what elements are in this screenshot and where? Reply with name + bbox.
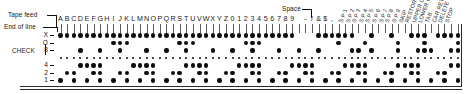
punch-dot xyxy=(72,33,76,37)
punch-dot xyxy=(111,78,115,82)
punch-dot xyxy=(151,63,155,67)
punch-dot xyxy=(343,63,347,67)
guide-dot xyxy=(391,57,393,59)
guide-dot xyxy=(397,57,399,59)
punch-dot xyxy=(98,48,102,52)
punch-dot xyxy=(456,48,460,52)
punch-dot xyxy=(350,78,354,82)
punch-dot xyxy=(184,63,188,67)
punch-dot xyxy=(277,71,281,75)
guide-dot xyxy=(311,57,313,59)
punch-dot xyxy=(409,63,413,67)
guide-dot xyxy=(126,57,128,59)
punch-dot xyxy=(257,63,261,67)
punch-dot xyxy=(91,33,95,37)
punch-dot xyxy=(125,33,129,37)
guide-dot xyxy=(424,57,426,59)
punch-dot xyxy=(197,33,201,37)
guide-dot xyxy=(410,57,412,59)
guide-dot xyxy=(417,57,419,59)
punch-dot xyxy=(125,78,129,82)
punch-dot xyxy=(197,71,201,75)
guide-dot xyxy=(265,57,267,59)
punch-dot xyxy=(184,41,188,45)
punch-dot xyxy=(191,63,195,67)
punch-dot xyxy=(244,78,248,82)
guide-dot xyxy=(152,57,154,59)
punch-dot xyxy=(177,78,181,82)
punch-dot xyxy=(191,78,195,82)
punch-dot xyxy=(283,33,287,37)
punch-dot xyxy=(257,33,261,37)
punch-dot xyxy=(65,33,69,37)
punch-dot xyxy=(270,78,274,82)
guide-dot xyxy=(73,57,75,59)
guide-dot xyxy=(298,57,300,59)
guide-dot xyxy=(251,57,253,59)
guide-dot xyxy=(146,57,148,59)
guide-dot xyxy=(218,57,220,59)
punch-dot xyxy=(158,33,162,37)
guide-dot xyxy=(331,57,333,59)
punch-dot xyxy=(91,71,95,75)
punch-dot xyxy=(336,33,340,37)
punch-dot xyxy=(204,71,208,75)
punch-dot xyxy=(250,63,254,67)
guide-dot xyxy=(66,57,68,59)
punch-dot xyxy=(164,48,168,52)
punch-dot xyxy=(456,63,460,67)
guide-dot xyxy=(437,57,439,59)
guide-dot xyxy=(99,57,101,59)
guide-dot xyxy=(139,57,141,59)
punch-dot xyxy=(277,48,281,52)
punch-dot xyxy=(316,48,320,52)
punch-dot xyxy=(456,41,460,45)
punch-dot xyxy=(343,33,347,37)
guide-dot xyxy=(344,57,346,59)
punch-dot xyxy=(98,33,102,37)
punch-dot xyxy=(303,63,307,67)
punch-dot xyxy=(164,33,168,37)
punch-dot xyxy=(244,63,248,67)
punch-dot xyxy=(177,33,181,37)
punch-dot xyxy=(310,63,314,67)
guide-dot xyxy=(172,57,174,59)
guide-dot xyxy=(285,57,287,59)
punch-dot xyxy=(297,63,301,67)
punch-dot xyxy=(396,41,400,45)
punch-dot xyxy=(85,33,89,37)
guide-dot xyxy=(185,57,187,59)
punch-dot xyxy=(91,63,95,67)
punch-dot xyxy=(151,33,155,37)
punch-dot xyxy=(250,48,254,52)
punch-dot xyxy=(237,33,241,37)
punch-dot xyxy=(204,63,208,67)
punch-dot xyxy=(204,78,208,82)
punch-dot xyxy=(416,63,420,67)
punch-dot xyxy=(310,78,314,82)
punch-dot xyxy=(72,78,76,82)
punch-dot xyxy=(383,71,387,75)
punch-dot xyxy=(369,48,373,52)
punch-dot xyxy=(171,71,175,75)
punch-dot xyxy=(237,63,241,67)
punch-dot xyxy=(250,33,254,37)
punch-dot xyxy=(416,71,420,75)
guide-dot xyxy=(271,57,273,59)
punch-dot xyxy=(144,33,148,37)
punch-dot xyxy=(449,48,453,52)
punch-dot xyxy=(224,33,228,37)
punch-dot xyxy=(151,71,155,75)
guide-dot xyxy=(112,57,114,59)
punch-dot xyxy=(389,33,393,37)
punch-dot xyxy=(58,33,62,37)
guide-dot xyxy=(232,57,234,59)
punch-dot xyxy=(316,33,320,37)
punch-dot xyxy=(270,33,274,37)
punch-dot xyxy=(58,78,62,82)
punch-dot xyxy=(125,71,129,75)
guide-dot xyxy=(371,57,373,59)
guide-dot xyxy=(205,57,207,59)
guide-dot xyxy=(79,57,81,59)
punch-dot xyxy=(184,48,188,52)
